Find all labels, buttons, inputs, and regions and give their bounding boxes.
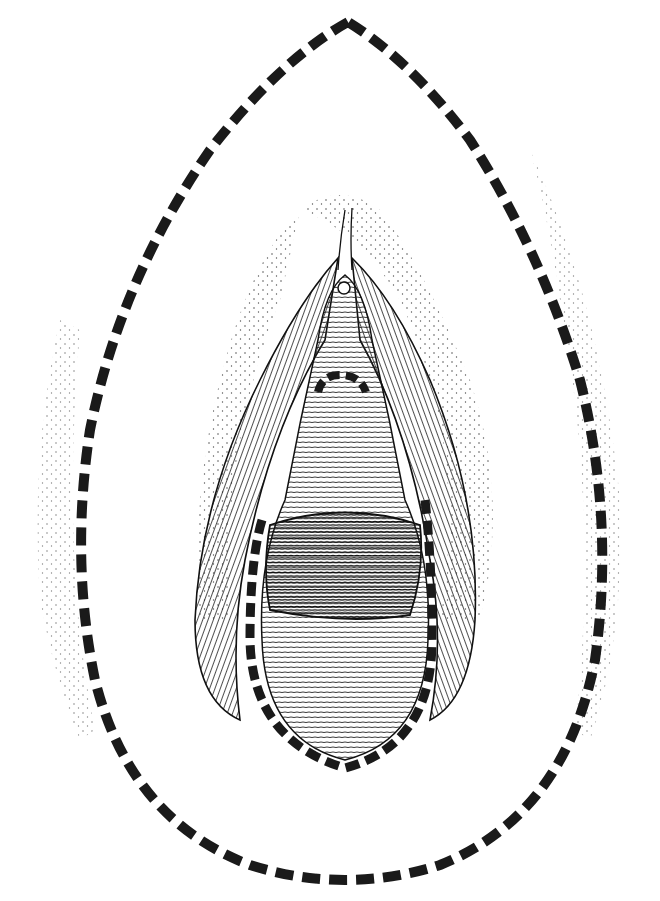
small-opening bbox=[338, 282, 350, 294]
illustration-canvas bbox=[0, 0, 660, 901]
anatomical-illustration bbox=[0, 0, 660, 901]
